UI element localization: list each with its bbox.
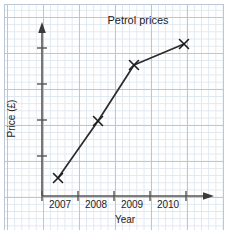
x-axis-arrow-icon <box>203 192 214 200</box>
x-tick-label-2008: 2008 <box>76 199 116 210</box>
page-margin-left <box>0 0 4 240</box>
data-line-series-1 <box>58 44 184 178</box>
x-axis-title: Year <box>104 214 146 225</box>
data-point-marker <box>54 174 63 183</box>
page-margin-right <box>224 0 228 240</box>
chart-screenshot: Petrol prices 2007 2008 2009 2010 Year P… <box>0 0 228 240</box>
x-tick-label-2009: 2009 <box>112 199 152 210</box>
data-point-marker <box>130 61 139 70</box>
chart-title: Petrol prices <box>88 14 188 26</box>
page-margin-bottom <box>0 230 228 240</box>
x-tick-label-2007: 2007 <box>40 199 80 210</box>
y-axis-arrow-icon <box>38 22 46 33</box>
x-tick-label-2010: 2010 <box>148 199 188 210</box>
data-point-marker <box>180 40 189 49</box>
data-point-marker <box>94 117 103 126</box>
page-margin-top <box>0 0 228 4</box>
y-axis-title: Price (£) <box>6 89 17 149</box>
